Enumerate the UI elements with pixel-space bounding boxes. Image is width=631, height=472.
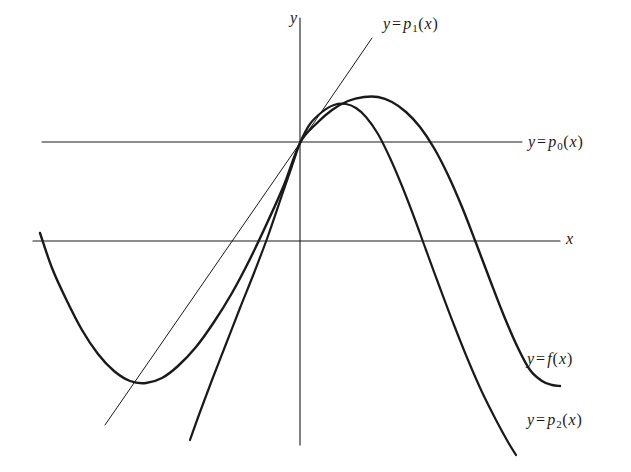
label-p2-close-paren: ) xyxy=(576,411,583,428)
label-p0-y: y xyxy=(528,133,536,150)
label-p0-subscript: 0 xyxy=(557,140,563,152)
curve-label-p0: y=p0(x) xyxy=(528,134,584,152)
y-axis-label-text: y xyxy=(290,9,297,26)
label-f-close-paren: ) xyxy=(567,350,574,367)
label-p2-equals: = xyxy=(535,411,548,428)
curve-label-p1: y=p1(x) xyxy=(383,16,439,34)
label-p1-y: y xyxy=(383,15,391,32)
y-axis-label: y xyxy=(290,10,297,26)
x-axis-label: x xyxy=(566,231,573,247)
taylor-approximation-figure: y x y=p1(x) y=p0(x) y=f(x) y=p2(x) xyxy=(0,0,631,472)
label-p2-subscript: 2 xyxy=(556,418,562,430)
graph-canvas xyxy=(0,0,631,472)
label-p1-close-paren: ) xyxy=(432,15,439,32)
label-f-y: y xyxy=(527,350,535,367)
label-p0-close-paren: ) xyxy=(577,133,584,150)
label-p2-y: y xyxy=(527,411,535,428)
label-p1-arg: x xyxy=(424,15,432,32)
x-axis-label-text: x xyxy=(566,230,573,247)
label-p2-arg: x xyxy=(568,411,576,428)
label-f-equals: = xyxy=(535,350,548,367)
curve-label-f: y=f(x) xyxy=(527,351,573,367)
label-p0-equals: = xyxy=(536,133,549,150)
label-p1-equals: = xyxy=(391,15,404,32)
label-f-arg: x xyxy=(559,350,567,367)
label-p0-arg: x xyxy=(569,133,577,150)
label-p2-name: p xyxy=(547,411,556,428)
label-f-open-paren: ( xyxy=(552,350,559,367)
curve-linear-approximation-tangent xyxy=(105,38,372,425)
curve-label-p2: y=p2(x) xyxy=(527,412,583,430)
label-p0-name: p xyxy=(548,133,557,150)
label-p1-name: p xyxy=(403,15,412,32)
label-p1-subscript: 1 xyxy=(412,22,418,34)
